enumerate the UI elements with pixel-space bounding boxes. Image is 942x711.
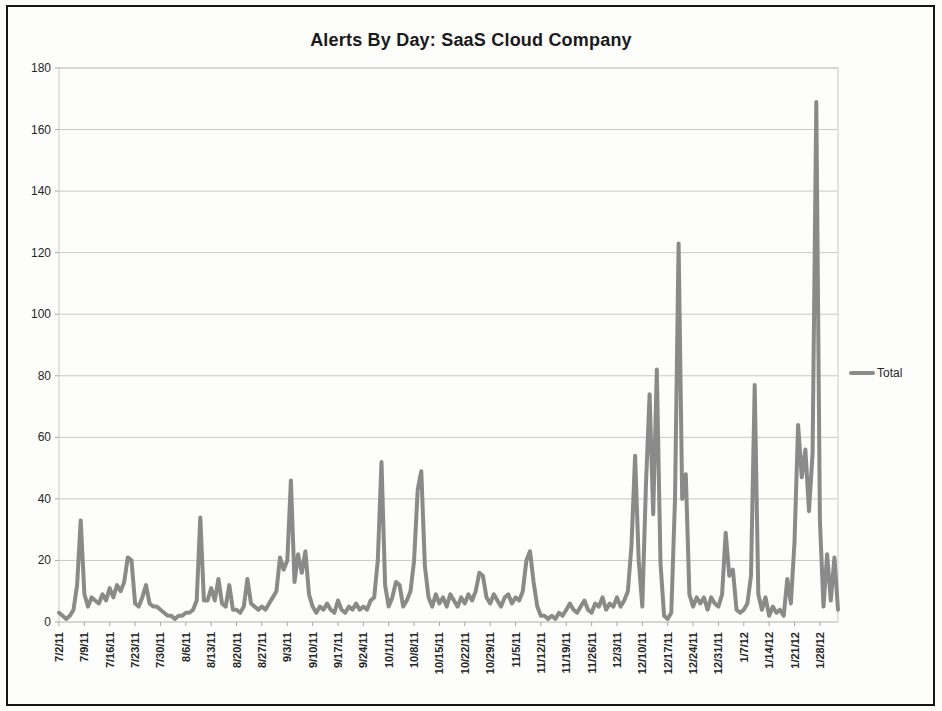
svg-text:8/6/11: 8/6/11 — [180, 632, 192, 662]
svg-text:8/13/11: 8/13/11 — [205, 632, 217, 668]
svg-text:60: 60 — [38, 430, 52, 444]
svg-text:1/28/12: 1/28/12 — [814, 632, 826, 669]
svg-text:9/24/11: 9/24/11 — [357, 632, 369, 668]
legend-series-label: Total — [877, 366, 902, 380]
svg-text:20: 20 — [38, 553, 52, 567]
svg-text:180: 180 — [31, 61, 51, 75]
svg-text:10/8/11: 10/8/11 — [408, 632, 420, 668]
svg-text:7/30/11: 7/30/11 — [154, 632, 166, 668]
svg-text:1/14/12: 1/14/12 — [763, 632, 775, 669]
plot-area: 0204060801001201401601807/2/117/9/117/16… — [0, 0, 942, 711]
svg-text:9/17/11: 9/17/11 — [332, 632, 344, 668]
svg-text:11/12/11: 11/12/11 — [535, 632, 547, 674]
svg-text:0: 0 — [44, 615, 51, 629]
svg-text:10/1/11: 10/1/11 — [383, 632, 395, 668]
svg-text:12/10/11: 12/10/11 — [636, 632, 648, 674]
svg-text:7/23/11: 7/23/11 — [129, 632, 141, 668]
svg-text:40: 40 — [38, 492, 52, 506]
legend-line-icon — [849, 371, 875, 375]
svg-text:7/16/11: 7/16/11 — [104, 632, 116, 668]
svg-text:12/17/11: 12/17/11 — [662, 632, 674, 674]
svg-text:12/3/11: 12/3/11 — [611, 632, 623, 668]
svg-text:11/26/11: 11/26/11 — [586, 632, 598, 674]
svg-text:8/20/11: 8/20/11 — [231, 632, 243, 668]
svg-text:9/10/11: 9/10/11 — [307, 632, 319, 668]
svg-text:10/22/11: 10/22/11 — [459, 632, 471, 674]
svg-text:1/21/12: 1/21/12 — [789, 632, 801, 669]
svg-text:160: 160 — [31, 123, 51, 137]
svg-text:80: 80 — [38, 369, 52, 383]
svg-text:12/31/11: 12/31/11 — [712, 632, 724, 674]
svg-text:12/24/11: 12/24/11 — [687, 632, 699, 674]
figure: Alerts By Day: SaaS Cloud Company 020406… — [0, 0, 942, 711]
svg-text:1/7/12: 1/7/12 — [738, 632, 750, 663]
svg-text:10/15/11: 10/15/11 — [433, 632, 445, 674]
svg-text:8/27/11: 8/27/11 — [256, 632, 268, 668]
svg-text:140: 140 — [31, 184, 51, 198]
svg-text:7/9/11: 7/9/11 — [78, 632, 90, 662]
svg-text:9/3/11: 9/3/11 — [281, 632, 293, 662]
svg-text:11/5/11: 11/5/11 — [510, 632, 522, 668]
svg-text:120: 120 — [31, 246, 51, 260]
svg-text:100: 100 — [31, 307, 51, 321]
svg-text:7/2/11: 7/2/11 — [53, 632, 65, 662]
svg-text:11/19/11: 11/19/11 — [560, 632, 572, 674]
svg-text:10/29/11: 10/29/11 — [484, 632, 496, 674]
legend: Total — [849, 366, 902, 380]
